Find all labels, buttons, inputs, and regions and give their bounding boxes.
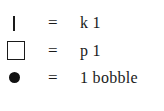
- filled-circle-icon: [9, 72, 20, 83]
- equals-sign: =: [48, 68, 58, 88]
- key-row-bobble: = 1 bobble: [0, 67, 164, 91]
- equals-sign: =: [48, 13, 58, 33]
- key-row-purl: = p 1: [0, 40, 164, 64]
- equals-sign: =: [48, 41, 58, 61]
- key-meaning: p 1: [80, 41, 101, 61]
- key-meaning: k 1: [80, 13, 101, 33]
- key-row-knit: = k 1: [0, 12, 164, 36]
- key-meaning: 1 bobble: [80, 68, 138, 88]
- vertical-bar-icon: [13, 16, 15, 31]
- empty-square-icon: [7, 41, 25, 60]
